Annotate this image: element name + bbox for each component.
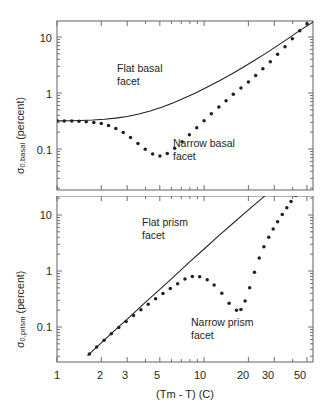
- annotation-flat-basal-line2: facet: [117, 75, 163, 88]
- annotation-flat-prism-line1: Flat prism: [142, 216, 188, 229]
- x-axis-title: (Tm - T) (C): [125, 388, 245, 400]
- annotation-flat-basal-facet: Flat basal facet: [117, 62, 163, 88]
- top-ytick-label-0.1: 0.1: [14, 144, 52, 156]
- top-ytick-label-10: 10: [20, 32, 52, 44]
- xtick-label-30: 30: [258, 369, 278, 381]
- top-panel-y-axis-label: σ0,basal (percent): [14, 97, 27, 174]
- top-ytick-label-1: 1: [20, 88, 52, 100]
- annotation-narrow-prism-facet: Narrow prism facet: [191, 316, 253, 342]
- annotation-narrow-prism-line2: facet: [191, 329, 253, 342]
- annotation-narrow-basal-line2: facet: [173, 150, 235, 163]
- xtick-label-1: 1: [47, 369, 67, 381]
- figure-container: σ0,basal (percent) 10 1 0.1 Flat basal f…: [0, 0, 325, 411]
- top-y-sigma: σ: [14, 167, 26, 174]
- annotation-flat-basal-line1: Flat basal: [117, 62, 163, 75]
- xtick-label-2: 2: [90, 369, 110, 381]
- xtick-label-20: 20: [233, 369, 253, 381]
- bottom-ytick-label-1: 1: [20, 265, 52, 277]
- xtick-label-5: 5: [147, 369, 167, 381]
- annotation-flat-prism-facet: Flat prism facet: [142, 216, 188, 242]
- top-y-unit: (percent): [14, 97, 26, 143]
- annotation-narrow-prism-line1: Narrow prism: [191, 316, 253, 329]
- bottom-panel-y-axis-label: σ0,prism (percent): [14, 271, 27, 348]
- bottom-ytick-label-0.1: 0.1: [14, 321, 52, 333]
- bottom-y-sigma: σ: [14, 341, 26, 348]
- annotation-narrow-basal-facet: Narrow basal facet: [173, 137, 235, 163]
- xtick-label-50: 50: [290, 369, 310, 381]
- annotation-flat-prism-line2: facet: [142, 229, 188, 242]
- xtick-label-3: 3: [115, 369, 135, 381]
- xtick-label-10: 10: [190, 369, 210, 381]
- annotation-narrow-basal-line1: Narrow basal: [173, 137, 235, 150]
- bottom-y-unit: (percent): [14, 271, 26, 317]
- bottom-ytick-label-10: 10: [20, 209, 52, 221]
